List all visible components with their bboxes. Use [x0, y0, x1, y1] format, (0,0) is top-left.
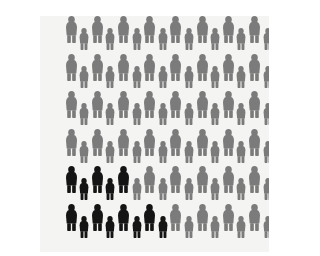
person-icon — [184, 103, 194, 125]
person-icon — [236, 66, 246, 88]
person-icon-highlighted — [66, 204, 77, 231]
person-icon — [79, 141, 89, 163]
person-icon — [184, 28, 194, 50]
person-icon — [105, 141, 115, 163]
person-icon — [236, 141, 246, 163]
person-icon — [184, 141, 194, 163]
person-icon — [249, 204, 260, 231]
person-icon — [66, 54, 77, 81]
person-icon-highlighted — [105, 178, 115, 200]
person-icon — [263, 103, 270, 125]
person-icon — [210, 66, 220, 88]
pictogram-canvas — [40, 16, 269, 252]
person-icon-highlighted — [66, 166, 77, 193]
person-icon — [249, 166, 260, 193]
person-icon — [170, 91, 181, 118]
person-icon — [263, 178, 270, 200]
person-icon — [210, 141, 220, 163]
person-icon — [92, 16, 103, 43]
person-icon — [105, 28, 115, 50]
person-icon — [170, 166, 181, 193]
person-icon-highlighted — [92, 204, 103, 231]
person-icon — [66, 91, 77, 118]
person-icon — [105, 103, 115, 125]
person-icon — [79, 28, 89, 50]
person-icon-highlighted — [105, 216, 115, 238]
person-icon — [158, 66, 168, 88]
person-icon — [236, 28, 246, 50]
person-icon — [197, 129, 208, 156]
person-icon — [223, 129, 234, 156]
person-icon — [210, 216, 220, 238]
person-icon — [144, 166, 155, 193]
person-icon — [132, 28, 142, 50]
person-icon — [118, 91, 129, 118]
person-icon — [223, 54, 234, 81]
person-icon — [249, 91, 260, 118]
person-icon — [197, 166, 208, 193]
person-icon — [132, 141, 142, 163]
person-icon — [158, 103, 168, 125]
person-icon — [249, 54, 260, 81]
person-icon — [223, 16, 234, 43]
person-icon — [132, 103, 142, 125]
person-icon — [236, 178, 246, 200]
person-icon-highlighted — [79, 178, 89, 200]
person-icon — [170, 204, 181, 231]
person-icon — [236, 216, 246, 238]
person-icon — [263, 141, 270, 163]
person-icon-highlighted — [118, 204, 129, 231]
person-icon — [197, 91, 208, 118]
person-icon — [170, 16, 181, 43]
person-icon — [263, 216, 270, 238]
person-icon — [132, 178, 142, 200]
person-icon — [158, 178, 168, 200]
person-icon — [118, 129, 129, 156]
person-icon — [170, 54, 181, 81]
person-icon — [197, 204, 208, 231]
person-icon-highlighted — [158, 216, 168, 238]
pictogram-figure: Grid of human silhouettes; a subset in t… — [40, 16, 269, 252]
person-icon — [197, 16, 208, 43]
person-icon — [210, 103, 220, 125]
person-icon — [184, 66, 194, 88]
person-icon — [184, 216, 194, 238]
person-icon — [249, 16, 260, 43]
person-icon — [144, 16, 155, 43]
person-icon — [263, 28, 270, 50]
person-icon — [144, 91, 155, 118]
person-icon — [223, 166, 234, 193]
person-icon — [92, 91, 103, 118]
person-icon — [92, 54, 103, 81]
person-icon — [158, 141, 168, 163]
person-icon — [66, 16, 77, 43]
person-icon — [210, 28, 220, 50]
person-icon — [236, 103, 246, 125]
person-icon — [263, 66, 270, 88]
person-icon — [132, 66, 142, 88]
person-icon — [92, 129, 103, 156]
person-icon — [79, 66, 89, 88]
person-icon-highlighted — [132, 216, 142, 238]
person-icon — [223, 204, 234, 231]
person-icon — [210, 178, 220, 200]
person-icon-highlighted — [79, 216, 89, 238]
person-icon — [249, 129, 260, 156]
person-icon — [184, 178, 194, 200]
person-icon — [79, 103, 89, 125]
person-icon-highlighted — [92, 166, 103, 193]
person-icon — [144, 129, 155, 156]
person-icon — [197, 54, 208, 81]
person-icon — [118, 16, 129, 43]
person-icon — [158, 28, 168, 50]
person-icon — [170, 129, 181, 156]
person-icon — [105, 66, 115, 88]
person-icon — [144, 54, 155, 81]
person-icon — [66, 129, 77, 156]
person-icon-highlighted — [118, 166, 129, 193]
person-icon — [118, 54, 129, 81]
person-icon-highlighted — [144, 204, 155, 231]
person-icon — [223, 91, 234, 118]
